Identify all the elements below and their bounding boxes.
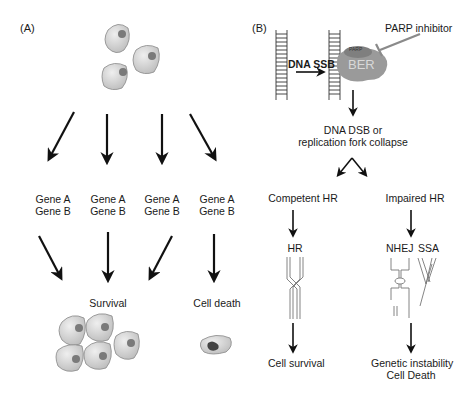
instability-label: Genetic instabilityCell Death [371, 357, 451, 381]
cell-cluster-top [102, 24, 159, 89]
panel-b-label: (B) [252, 22, 267, 34]
inhibitor-line [376, 34, 420, 56]
hr-label: HR [285, 242, 305, 254]
genotype-1: Gene AGene B [33, 193, 73, 217]
genotype-4: Gene AGene B [197, 193, 237, 217]
ber-label: BER [348, 58, 375, 72]
arrows-merge [39, 232, 214, 278]
dying-cell [200, 335, 231, 354]
hr-schematic [287, 257, 303, 319]
cell-death-label: Cell death [190, 297, 244, 309]
dsb-label: DNA DSB orreplication fork collapse [292, 124, 414, 148]
ssa-label: SSA [418, 242, 439, 254]
genotype-3: Gene AGene B [142, 193, 182, 217]
cell-survival-label: Cell survival [268, 357, 324, 369]
parp-inhibitor-label: PARP inhibitor [385, 22, 452, 34]
impaired-hr-label: Impaired HR [385, 192, 445, 204]
competent-hr-label: Competent HR [268, 192, 338, 204]
cell-cluster-survival [56, 314, 139, 372]
arrows-split [50, 112, 214, 160]
dna-ladder-left [276, 30, 287, 100]
genotype-2: Gene AGene B [88, 193, 128, 217]
panel-a-label: (A) [20, 22, 35, 34]
survival-label: Survival [88, 297, 128, 309]
dna-ssb-label: DNA SSB [288, 58, 335, 70]
nhej-ssa-schematic [391, 258, 436, 318]
nhej-label: NHEJ [386, 242, 413, 254]
parp-label: PARP [349, 46, 362, 52]
